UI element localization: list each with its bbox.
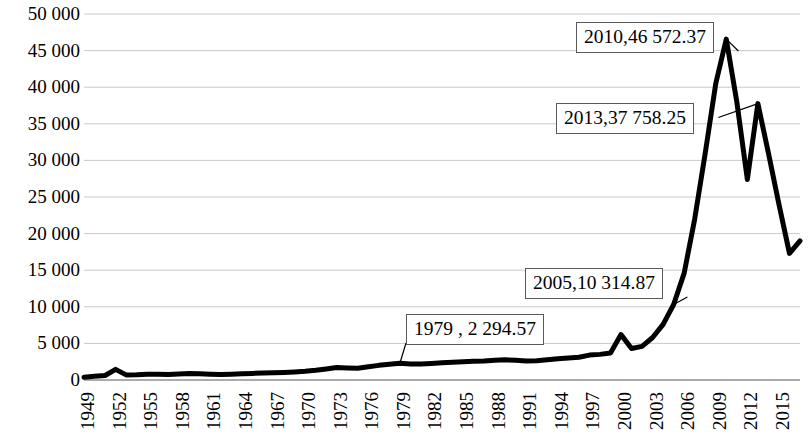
data-label-callout: 2010,46 572.37 (576, 22, 714, 53)
chart-container: 50 00045 00040 00035 00030 00025 00020 0… (0, 0, 810, 436)
data-label-callout: 1979 , 2 294.57 (406, 314, 544, 345)
data-label-callouts: 2010,46 572.372013,37 758.252005,10 314.… (0, 0, 810, 436)
data-label-callout: 2013,37 758.25 (556, 103, 694, 134)
data-label-callout: 2005,10 314.87 (525, 268, 663, 299)
